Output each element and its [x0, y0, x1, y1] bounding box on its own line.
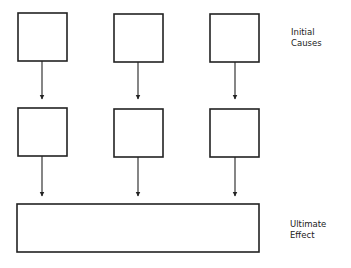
ultimate-effect-label: Ultimate Effect	[290, 219, 326, 241]
initial-cause-box-1	[18, 13, 67, 61]
intermediate-box-1	[18, 108, 67, 156]
intermediate-box-3	[210, 109, 259, 157]
ultimate-effect-line1: Ultimate	[290, 219, 326, 230]
ultimate-effect-line2: Effect	[290, 230, 326, 241]
initial-cause-box-3	[210, 14, 259, 62]
initial-causes-line1: Initial	[291, 27, 322, 38]
initial-causes-label: Initial Causes	[291, 27, 322, 49]
ultimate-effect-box	[17, 204, 259, 252]
intermediate-box-2	[114, 109, 163, 157]
initial-cause-box-2	[114, 14, 163, 62]
initial-causes-line2: Causes	[291, 38, 322, 49]
